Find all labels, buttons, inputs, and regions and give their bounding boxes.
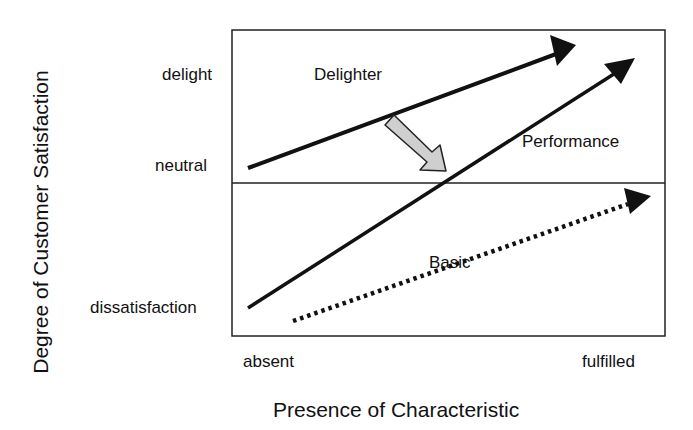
basic-arrowhead-icon: [624, 188, 651, 214]
x-tick-fulfilled: fulfilled: [582, 352, 635, 372]
y-tick-delight: delight: [162, 65, 212, 85]
y-tick-neutral: neutral: [155, 156, 207, 176]
performance-arrowhead-icon: [604, 58, 635, 84]
performance-label: Performance: [522, 132, 619, 152]
x-axis-title: Presence of Characteristic: [273, 398, 519, 422]
y-axis-title: Degree of Customer Satisfaction: [29, 70, 53, 373]
basic-label: Basic: [429, 253, 471, 273]
x-tick-absent: absent: [243, 352, 294, 372]
delighter-label: Delighter: [314, 65, 382, 85]
delighter-arrowhead-icon: [550, 35, 576, 66]
delighter-curve: [248, 54, 556, 168]
y-tick-dissatisfaction: dissatisfaction: [90, 298, 197, 318]
shift-arrow-icon: [385, 115, 446, 171]
